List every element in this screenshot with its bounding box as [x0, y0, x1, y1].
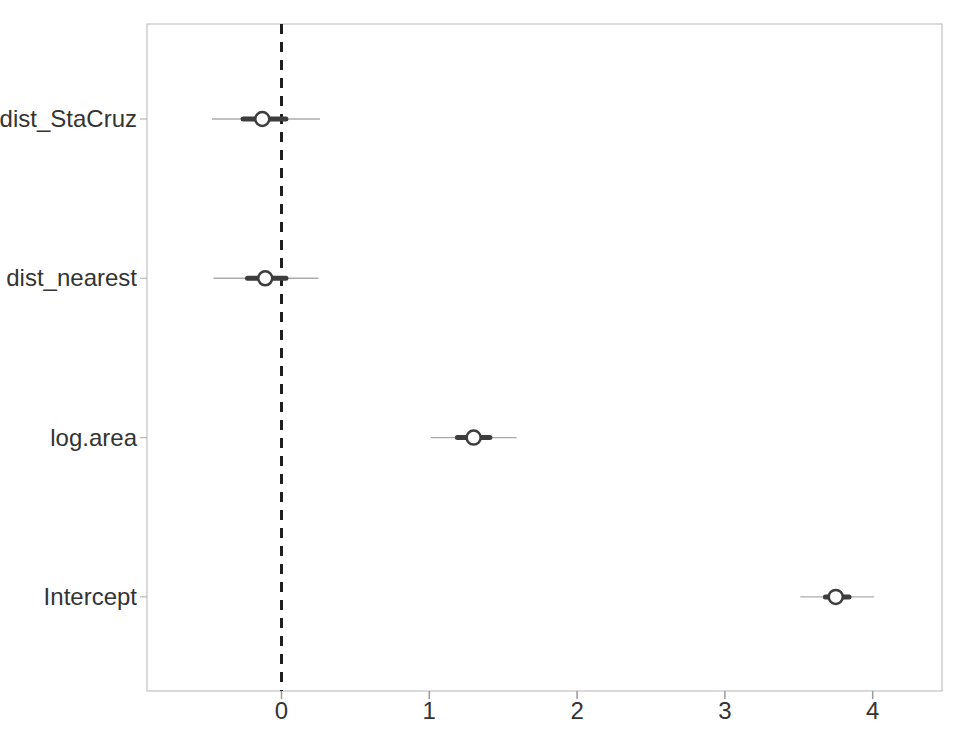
coefficient-plot-svg: 01234dist_StaCruzdist_nearestlog.areaInt…: [0, 0, 967, 745]
estimate-point-dist_StaCruz: [255, 112, 269, 126]
x-axis-tick-label: 3: [718, 697, 731, 724]
category-label-log.area: log.area: [50, 424, 137, 451]
estimate-point-log.area: [467, 431, 481, 445]
estimate-point-dist_nearest: [258, 271, 272, 285]
coefficient-plot-figure: 01234dist_StaCruzdist_nearestlog.areaInt…: [0, 0, 967, 745]
estimate-point-Intercept: [829, 590, 843, 604]
category-label-Intercept: Intercept: [44, 583, 138, 610]
x-axis-tick-label: 1: [423, 697, 436, 724]
category-label-dist_StaCruz: dist_StaCruz: [0, 105, 137, 132]
category-label-dist_nearest: dist_nearest: [6, 264, 137, 291]
x-axis-tick-label: 4: [866, 697, 879, 724]
x-axis-tick-label: 0: [275, 697, 288, 724]
x-axis-tick-label: 2: [570, 697, 583, 724]
